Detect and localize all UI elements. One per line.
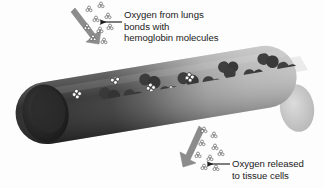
label-bottom-line-2: to tissue cells xyxy=(232,170,289,181)
label-top-line-2: bonds with xyxy=(124,21,169,32)
label-oxygen-released: Oxygen releasedto tissue cells xyxy=(232,158,304,181)
label-top-line-3: hemoglobin molecules xyxy=(124,32,218,43)
label-oxygen-from-lungs: Oxygen from lungsbonds withhemoglobin mo… xyxy=(124,9,218,44)
label-top-line-1: Oxygen from lungs xyxy=(124,9,204,20)
label-bottom-line-1: Oxygen released xyxy=(232,158,304,169)
